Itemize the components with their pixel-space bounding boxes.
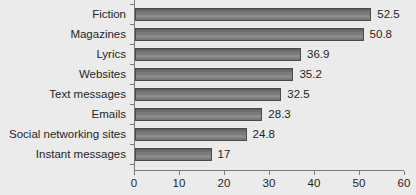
bar [135, 88, 281, 101]
y-axis-tick [130, 164, 134, 165]
bar-value-label: 24.8 [253, 128, 275, 141]
bar [135, 68, 293, 81]
x-axis-tick-label: 30 [263, 176, 276, 190]
y-axis-category-label: Fiction [92, 8, 126, 21]
x-axis-tick-label: 10 [173, 176, 186, 190]
y-axis-category-label: Magazines [70, 28, 126, 41]
bar [135, 128, 247, 141]
bar [135, 48, 301, 61]
y-axis-category-label: Text messages [49, 88, 126, 101]
x-axis-tick [359, 171, 360, 175]
y-axis-tick [130, 4, 134, 5]
x-axis-tick [269, 171, 270, 175]
y-axis-tick [130, 64, 134, 65]
y-axis-tick [130, 124, 134, 125]
bar [135, 28, 364, 41]
x-axis-tick [404, 171, 405, 175]
x-axis-tick [134, 171, 135, 175]
y-axis-category-label: Emails [91, 108, 126, 121]
x-axis-tick-label: 50 [353, 176, 366, 190]
x-axis-tick [224, 171, 225, 175]
bar [135, 148, 212, 161]
bar-value-label: 32.5 [287, 88, 309, 101]
y-axis-category-labels: FictionMagazinesLyricsWebsitesText messa… [0, 0, 130, 160]
y-axis-tick [130, 144, 134, 145]
x-axis-tick-label: 60 [398, 176, 411, 190]
bar-value-label: 28.3 [268, 108, 290, 121]
bar-value-label: 36.9 [307, 48, 329, 61]
bar-chart: FictionMagazinesLyricsWebsitesText messa… [0, 0, 416, 195]
x-axis-tick-label: 40 [308, 176, 321, 190]
bar-value-label: 35.2 [299, 68, 321, 81]
y-axis-tick [130, 24, 134, 25]
y-axis-category-label: Websites [79, 68, 126, 81]
bar [135, 8, 371, 21]
bar-value-label: 50.8 [370, 28, 392, 41]
y-axis-category-label: Social networking sites [9, 128, 126, 141]
y-axis-category-label: Lyrics [96, 48, 126, 61]
bar-value-label: 17 [218, 148, 231, 161]
y-axis-tick [130, 84, 134, 85]
bar [135, 108, 262, 121]
x-axis-tick [314, 171, 315, 175]
x-axis-tick [179, 171, 180, 175]
x-axis-tick-label: 20 [218, 176, 231, 190]
x-axis-tick-label: 0 [131, 176, 137, 190]
y-axis-category-label: Instant messages [36, 148, 126, 161]
y-axis-tick [130, 104, 134, 105]
x-axis-tick-labels: 0102030405060 [134, 176, 414, 194]
y-axis-tick [130, 44, 134, 45]
bar-value-label: 52.5 [377, 8, 399, 21]
y-axis-line [134, 0, 135, 171]
plot-area: 52.550.836.935.232.528.324.817 [134, 0, 404, 171]
